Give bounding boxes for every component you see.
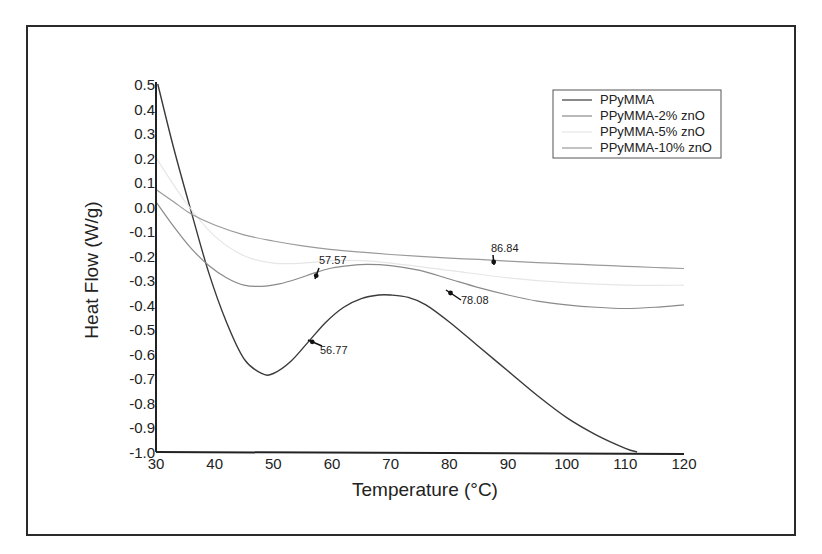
- y-tick-label: -0.8: [129, 395, 155, 412]
- legend-label: PPyMMA-2% znO: [600, 108, 705, 123]
- annotation-label: 56.77: [320, 344, 348, 356]
- x-tick-label: 90: [500, 455, 517, 472]
- x-tick-label: 110: [613, 455, 637, 472]
- legend-label: PPyMMA: [600, 92, 655, 107]
- arrow-head-icon: [310, 339, 315, 344]
- annotation-label: 86.84: [491, 242, 519, 254]
- x-axis-label: Temperature (°C): [352, 479, 498, 500]
- y-tick-label: 0.2: [134, 150, 155, 167]
- x-tick-label: 30: [148, 455, 165, 472]
- series-line-1: [156, 202, 684, 309]
- x-tick-labels: 30405060708090100110120: [148, 455, 697, 472]
- y-tick-label: -0.4: [129, 297, 155, 314]
- y-tick-labels: 0.50.40.30.20.10.0-0.1-0.2-0.3-0.4-0.5-0…: [129, 76, 155, 461]
- x-tick-label: 70: [382, 455, 399, 472]
- y-tick-label: -0.1: [129, 223, 155, 240]
- x-axis-line: [156, 452, 684, 454]
- y-tick-label: -0.6: [129, 346, 155, 363]
- y-tick-label: 0.1: [134, 174, 155, 191]
- y-axis-label: Heat Flow (W/g): [81, 201, 102, 338]
- annotation-arrow: [446, 290, 461, 300]
- y-tick-label: -0.5: [129, 321, 155, 338]
- annotation-label: 57.57: [319, 254, 347, 266]
- x-tick-label: 50: [265, 455, 282, 472]
- arrow-head-icon: [448, 291, 453, 296]
- y-tick-label: 0.5: [134, 76, 155, 93]
- arrow-head-icon: [491, 260, 496, 265]
- y-tick-label: 0.4: [134, 101, 155, 118]
- y-tick-label: 0.0: [134, 199, 155, 216]
- series-line-3: [156, 189, 684, 268]
- x-tick-label: 60: [324, 455, 341, 472]
- legend-label: PPyMMA-10% znO: [600, 140, 712, 155]
- legend: PPyMMAPPyMMA-2% znOPPyMMA-5% znOPPyMMA-1…: [553, 90, 721, 158]
- legend-label: PPyMMA-5% znO: [600, 124, 705, 139]
- x-tick-label: 100: [554, 455, 579, 472]
- dsc-chart: 0.50.40.30.20.10.0-0.1-0.2-0.3-0.4-0.5-0…: [0, 0, 822, 554]
- y-tick-label: -0.9: [129, 419, 155, 436]
- x-tick-label: 120: [671, 455, 696, 472]
- series-line-2: [156, 158, 684, 286]
- annotation-label: 78.08: [461, 294, 489, 306]
- arrow-head-icon: [314, 273, 319, 278]
- x-tick-label: 40: [206, 455, 223, 472]
- y-tick-label: -0.7: [129, 370, 155, 387]
- y-tick-label: -0.3: [129, 272, 155, 289]
- y-tick-label: 0.3: [134, 125, 155, 142]
- y-tick-label: -0.2: [129, 248, 155, 265]
- x-tick-label: 80: [441, 455, 458, 472]
